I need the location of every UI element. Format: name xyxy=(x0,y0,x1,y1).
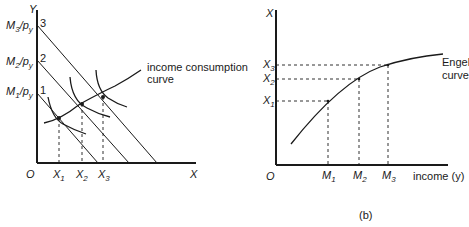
budget-line-1 xyxy=(37,93,98,163)
x-tick-x1: X1 xyxy=(52,168,65,183)
x-tick-m1: M1 xyxy=(322,169,336,184)
budget-line-3-index: 3 xyxy=(40,17,46,29)
panel-b-engel-curve: X O income (y) X3 X2 X1 M1 M2 M3 Engel c… xyxy=(262,7,469,221)
diagram-canvas: Y X O M3/py 3 M2/py 2 M1/py 1 X1 X2 X3 i… xyxy=(0,0,469,227)
budget-line-1-index: 1 xyxy=(40,84,46,96)
panel-a-y-axis-label: Y xyxy=(29,3,37,15)
panel-a-x-axis-label: X xyxy=(189,168,198,180)
income-consumption-curve-label-2: curve xyxy=(147,73,174,85)
y-tick-x1: X1 xyxy=(262,94,275,109)
panel-b-caption: (b) xyxy=(359,209,372,221)
y-tick-m1-py: M1/py xyxy=(6,85,34,100)
x-tick-x2: X2 xyxy=(75,168,88,183)
engel-curve-label-1: Engel xyxy=(442,56,469,68)
panel-b-origin-label: O xyxy=(266,170,275,182)
y-tick-x3: X3 xyxy=(262,58,275,73)
y-tick-x2: X2 xyxy=(262,72,275,87)
y-tick-m3-py: M3/py xyxy=(6,19,34,34)
engel-curve-label-2: curve xyxy=(442,69,469,81)
indifference-curve-3 xyxy=(96,70,127,107)
x-tick-m3: M3 xyxy=(382,169,396,184)
budget-line-2 xyxy=(37,60,129,163)
panel-a-income-consumption: Y X O M3/py 3 M2/py 2 M1/py 1 X1 X2 X3 i… xyxy=(6,3,248,183)
panel-a-origin-label: O xyxy=(26,168,35,180)
x-tick-m2: M2 xyxy=(353,169,367,184)
x-tick-x3: X3 xyxy=(97,168,110,183)
engel-curve xyxy=(291,54,443,144)
income-consumption-curve xyxy=(44,70,141,123)
budget-line-2-index: 2 xyxy=(40,52,46,64)
panel-b-x-axis-label: income (y) xyxy=(413,170,464,182)
budget-line-3 xyxy=(37,25,157,163)
panel-b-y-axis-label: X xyxy=(265,7,274,19)
y-tick-m2-py: M2/py xyxy=(6,55,34,70)
income-consumption-curve-label-1: income consumption xyxy=(147,61,248,73)
